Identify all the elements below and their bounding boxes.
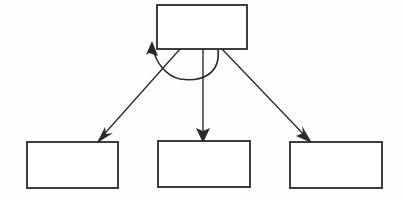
node-layer — [27, 5, 382, 188]
bottom-middle-node[interactable] — [158, 141, 250, 187]
edge-top-to-bottom-middle[interactable] — [196, 49, 210, 143]
top-node[interactable] — [157, 5, 247, 49]
bottom-right-node[interactable] — [290, 142, 382, 188]
bottom-left-node-rect — [27, 142, 118, 188]
bottom-right-node-rect — [290, 142, 382, 188]
edge-top-to-bottom-right[interactable] — [222, 49, 312, 143]
diagram-svg — [0, 0, 404, 201]
top-node-rect — [157, 5, 247, 49]
diagram-canvas — [0, 0, 404, 201]
edge-top-self-loop-path — [153, 47, 218, 80]
bottom-left-node[interactable] — [27, 142, 118, 188]
edge-top-to-bottom-left[interactable] — [97, 49, 180, 143]
edge-top-to-bottom-left-path — [99, 49, 180, 140]
bottom-middle-node-rect — [158, 141, 250, 187]
edge-layer — [97, 41, 312, 143]
edge-top-to-bottom-left-arrowhead — [97, 127, 113, 143]
edge-top-to-bottom-right-path — [222, 49, 309, 140]
